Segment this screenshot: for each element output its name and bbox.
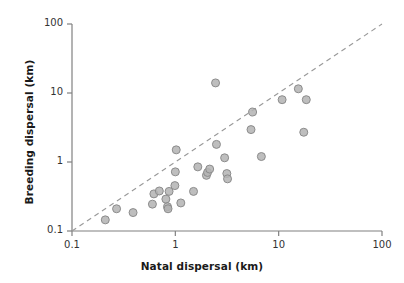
data-point xyxy=(206,165,214,173)
data-point xyxy=(171,182,179,190)
data-point xyxy=(294,85,302,93)
data-point xyxy=(212,140,220,148)
data-point xyxy=(148,200,156,208)
y-axis-title: Breeding dispersal (km) xyxy=(23,22,35,242)
data-point xyxy=(249,108,257,116)
data-point xyxy=(300,128,308,136)
one-to-one-reference-line xyxy=(72,24,382,231)
data-point xyxy=(302,96,310,104)
data-points xyxy=(101,79,310,224)
data-point xyxy=(190,187,198,195)
data-point xyxy=(172,146,180,154)
data-point xyxy=(257,153,265,161)
data-point xyxy=(194,163,202,171)
data-point xyxy=(177,199,185,207)
data-point xyxy=(164,205,172,213)
data-point xyxy=(113,205,121,213)
data-point xyxy=(221,154,229,162)
y-tick-label: 10 xyxy=(23,86,63,97)
scatter-plot-figure: Natal dispersal (km) Breeding dispersal … xyxy=(0,0,404,283)
data-point xyxy=(247,126,255,134)
x-axis-title: Natal dispersal (km) xyxy=(0,260,404,272)
y-tick-label: 100 xyxy=(23,17,63,28)
data-point xyxy=(171,168,179,176)
y-tick-label: 1 xyxy=(23,155,63,166)
x-tick-label: 10 xyxy=(259,239,299,250)
y-tick-label: 0.1 xyxy=(23,224,63,235)
data-point xyxy=(278,96,286,104)
y-axis-ticks xyxy=(67,24,72,231)
data-point xyxy=(129,209,137,217)
x-tick-label: 0.1 xyxy=(52,239,92,250)
reference-line xyxy=(72,24,382,231)
data-point xyxy=(155,187,163,195)
data-point xyxy=(224,175,232,183)
x-tick-label: 100 xyxy=(362,239,402,250)
data-point xyxy=(162,195,170,203)
data-point xyxy=(101,216,109,224)
x-tick-label: 1 xyxy=(155,239,195,250)
data-point xyxy=(212,79,220,87)
x-axis-ticks xyxy=(72,231,382,236)
